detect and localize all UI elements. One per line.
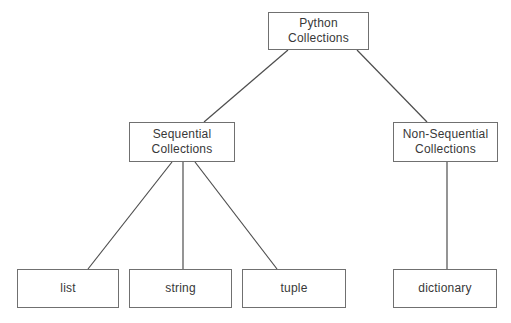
node-sequential-collections-line2: Collections — [152, 142, 213, 157]
node-sequential-collections: Sequential Collections — [129, 122, 235, 162]
node-non-sequential-collections-line2: Collections — [415, 142, 476, 157]
edge-root-to-sequential — [204, 50, 288, 122]
node-dictionary: dictionary — [393, 269, 497, 308]
node-sequential-collections-line1: Sequential — [153, 127, 212, 142]
node-list-label: list — [60, 281, 75, 296]
node-list: list — [17, 269, 119, 308]
node-python-collections-line2: Collections — [288, 31, 349, 46]
node-non-sequential-collections-line1: Non-Sequential — [403, 127, 489, 142]
edge-sequential-to-list — [88, 162, 172, 269]
diagram-canvas: Python Collections Sequential Collection… — [0, 0, 511, 323]
node-tuple: tuple — [242, 269, 346, 308]
node-dictionary-label: dictionary — [418, 281, 471, 296]
node-tuple-label: tuple — [280, 281, 307, 296]
node-python-collections-line1: Python — [299, 16, 338, 31]
edge-sequential-to-tuple — [195, 162, 277, 269]
node-python-collections: Python Collections — [268, 12, 369, 50]
node-string-label: string — [165, 281, 196, 296]
node-non-sequential-collections: Non-Sequential Collections — [393, 122, 498, 162]
edge-root-to-non-sequential — [357, 50, 427, 122]
node-string: string — [129, 269, 232, 308]
